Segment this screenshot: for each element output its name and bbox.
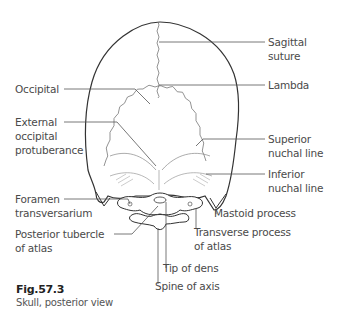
figure-number: Fig.57.3 (16, 283, 64, 296)
label-foramen-transversarium: Foramen transversarium (15, 192, 92, 220)
label-ext-occ-line2: occipital (15, 129, 83, 143)
label-transverse-process-line2: of atlas (194, 239, 291, 253)
label-superior-nuchal-line2: nuchal line (268, 146, 323, 160)
label-ext-occ-line1: External (15, 115, 83, 129)
label-ext-occ-line3: protuberance (15, 143, 83, 157)
muscle-marking-hatching (116, 174, 210, 186)
label-inferior-nuchal-line1: Inferior (268, 167, 323, 181)
superior-nuchal-line-left (110, 153, 156, 170)
label-inferior-nuchal-line: Inferior nuchal line (268, 167, 323, 195)
label-posterior-tubercle-line1: Posterior tubercle (15, 227, 104, 241)
label-posterior-tubercle-atlas: Posterior tubercle of atlas (15, 227, 104, 255)
label-sagittal-suture-line1: Sagittal (268, 35, 307, 49)
label-posterior-tubercle-line2: of atlas (15, 241, 104, 255)
label-sagittal-suture: Sagittal suture (268, 35, 307, 63)
inferior-nuchal-line-left (110, 173, 154, 184)
label-inferior-nuchal-line2: nuchal line (268, 181, 323, 195)
label-mastoid-process: Mastoid process (214, 206, 296, 220)
label-superior-nuchal-line: Superior nuchal line (268, 132, 323, 160)
label-spine-of-axis: Spine of axis (155, 279, 220, 293)
label-foramen-line1: Foramen (15, 192, 92, 206)
label-tip-of-dens: Tip of dens (163, 261, 219, 275)
label-lambda: Lambda (268, 78, 309, 92)
skull-posterior-view-figure: Sagittal suture Lambda Superior nuchal l… (0, 0, 337, 312)
label-transverse-process-line1: Transverse process (194, 225, 291, 239)
label-sagittal-suture-line2: suture (268, 49, 307, 63)
leader-occipital (64, 89, 150, 104)
inferior-nuchal-line-right (164, 173, 212, 184)
leader-superior-nuchal-line (196, 139, 265, 146)
label-occipital: Occipital (15, 82, 59, 96)
lambdoid-suture-right (158, 86, 206, 161)
superior-nuchal-line-right (162, 153, 210, 170)
skull-outline (85, 22, 238, 210)
label-transverse-process-atlas: Transverse process of atlas (194, 225, 291, 253)
figure-caption: Skull, posterior view (16, 297, 113, 308)
label-foramen-line2: transversarium (15, 206, 92, 220)
label-external-occipital-protuberance: External occipital protuberance (15, 115, 83, 157)
label-superior-nuchal-line1: Superior (268, 132, 323, 146)
